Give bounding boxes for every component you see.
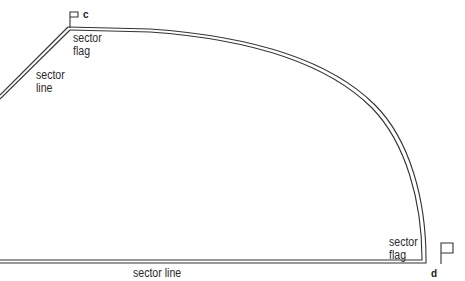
flag-icon-c bbox=[70, 12, 78, 28]
outer-boundary-curve bbox=[68, 27, 426, 259]
sector-line-label-left: sector line bbox=[36, 69, 65, 95]
point-label-d: d bbox=[431, 268, 437, 279]
sector-flag-label-c: sector flag bbox=[73, 32, 102, 58]
point-label-c: c bbox=[83, 9, 89, 20]
flag-icon-d bbox=[441, 243, 453, 264]
bottom-sector-line bbox=[0, 259, 426, 263]
sector-line-label-bottom: sector line bbox=[133, 267, 181, 280]
sector-flag-label-d: sector flag bbox=[389, 236, 418, 262]
